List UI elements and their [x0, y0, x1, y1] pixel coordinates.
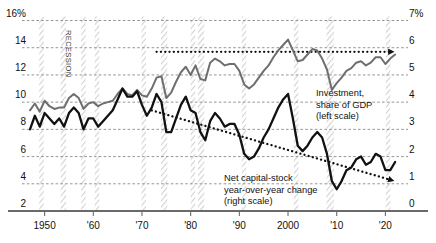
netcap-annot-line-2: year-over-year change [224, 185, 318, 197]
right-axis-ticks-group: 01234567% [409, 8, 424, 210]
x-axis-tick-label: '90 [233, 220, 246, 231]
netcap-annot-line-3: (right scale) [224, 196, 318, 208]
x-axis-tick-label: '70 [135, 220, 148, 231]
recession-band-label: RECESSION [64, 30, 73, 77]
left-axis-tick-label: 14 [15, 35, 27, 46]
left-axis-ticks-group: 246810121416% [6, 8, 26, 210]
recession-band [95, 17, 100, 212]
x-axis-tick-label: 1950 [33, 220, 56, 231]
right-axis-tick-label: 5 [409, 62, 415, 73]
right-axis-tick-label: 2 [409, 144, 415, 155]
left-axis-tick-label: 16% [6, 8, 26, 19]
x-axis-tick-label: '10 [330, 220, 343, 231]
left-axis-tick-label: 12 [15, 62, 27, 73]
investment-annot-line-2: share of GDP [316, 100, 372, 112]
left-axis-tick-label: 6 [20, 144, 26, 155]
right-axis-tick-label: 1 [409, 171, 415, 182]
right-axis-tick-label: 0 [409, 198, 415, 209]
x-axis-tick-label: '60 [87, 220, 100, 231]
left-axis-tick-label: 2 [20, 198, 26, 209]
chart-container: 246810121416% 01234567% 1950'60'70'80'90… [0, 0, 436, 243]
right-axis-tick-label: 7% [409, 8, 424, 19]
investment-annot-line-1: Investment, [316, 88, 372, 100]
right-axis-tick-label: 4 [409, 89, 415, 100]
recession-band [198, 17, 204, 212]
netcap-series-annotation: Net capital-stock year-over-year change … [224, 173, 318, 208]
recession-band [39, 17, 44, 212]
x-axis-ticks-group: 1950'60'70'80'902000'10'20 [33, 212, 392, 231]
recession-label-group: RECESSION [64, 30, 73, 77]
left-axis-tick-label: 8 [20, 116, 26, 127]
netcap-annot-line-1: Net capital-stock [224, 173, 318, 185]
recession-band [81, 17, 86, 212]
x-axis-tick-label: 2000 [277, 220, 300, 231]
left-axis-tick-label: 4 [20, 171, 26, 182]
recession-band [386, 17, 391, 212]
left-axis-tick-label: 10 [15, 89, 27, 100]
investment-series-annotation: Investment, share of GDP (left scale) [316, 88, 372, 123]
x-axis-tick-label: '80 [184, 220, 197, 231]
right-axis-tick-label: 3 [409, 116, 415, 127]
x-axis-tick-label: '20 [379, 220, 392, 231]
investment-annot-line-3: (left scale) [316, 111, 372, 123]
right-axis-tick-label: 6 [409, 35, 415, 46]
